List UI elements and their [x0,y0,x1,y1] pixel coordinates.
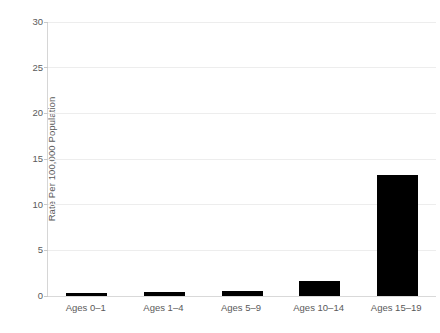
y-tick-label-15: 15 [9,154,43,164]
bars-layer [48,22,436,296]
x-tick-label: Ages 1–4 [125,302,203,314]
x-tick-label: Ages 5–9 [202,302,280,314]
y-tick-label-25: 25 [9,63,43,73]
x-tick-label: Ages 15–19 [357,302,435,314]
bar-chart: Rate Per 100,000 Population 051015202530… [0,0,440,333]
y-axis-tick-labels: 051015202530 [5,22,43,296]
bar [222,291,263,296]
y-tick-label-20: 20 [9,108,43,118]
plot-area [47,22,436,296]
y-tick-label-0: 0 [9,291,43,301]
bar [377,175,418,296]
y-tick-label-10: 10 [9,200,43,210]
y-tick-label-5: 5 [9,245,43,255]
bar [299,281,340,296]
x-axis-tick-labels: Ages 0–1Ages 1–4Ages 5–9Ages 10–14Ages 1… [47,302,435,322]
x-tick-label: Ages 0–1 [47,302,125,314]
x-tick-label: Ages 10–14 [280,302,358,314]
y-tick-label-30: 30 [9,17,43,27]
bar [144,292,185,296]
bar [66,293,107,296]
